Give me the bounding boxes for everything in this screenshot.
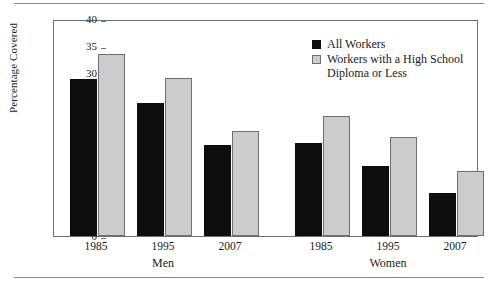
y-axis-title: Percentage Covered xyxy=(7,0,19,143)
bar-hs-or-less xyxy=(165,78,192,236)
bar-all-workers xyxy=(362,166,389,236)
x-tick-label: 2007 xyxy=(425,240,485,252)
chart-legend: All Workers Workers with a High School D… xyxy=(312,37,497,81)
bar-hs-or-less xyxy=(98,54,125,236)
legend-label-all-workers: All Workers xyxy=(327,37,385,51)
x-tick-label: 1995 xyxy=(358,240,418,252)
legend-label-hs-or-less: Workers with a High School Diploma or Le… xyxy=(327,52,463,80)
x-tick-label: 1985 xyxy=(291,240,351,252)
bar-all-workers xyxy=(137,103,164,236)
x-tick-label: 1985 xyxy=(66,240,126,252)
figure-container: Percentage Covered 0510152025303540 All … xyxy=(0,0,497,286)
legend-swatch-hs-or-less xyxy=(312,55,321,64)
plot-area: 0510152025303540 All Workers Workers wit… xyxy=(53,20,478,237)
legend-swatch-all-workers xyxy=(312,40,321,49)
bar-hs-or-less xyxy=(232,131,259,236)
bar-all-workers xyxy=(429,193,456,236)
x-tick-label: 1995 xyxy=(133,240,193,252)
figure-bottom-rule xyxy=(14,277,484,278)
legend-item-all-workers: All Workers xyxy=(312,37,497,51)
legend-item-hs-or-less: Workers with a High School Diploma or Le… xyxy=(312,52,497,80)
figure-top-rule xyxy=(14,3,484,4)
x-group-label-women: Women xyxy=(333,256,443,271)
bar-hs-or-less xyxy=(457,171,484,236)
x-tick-label: 2007 xyxy=(200,240,260,252)
bar-hs-or-less xyxy=(323,116,350,236)
bar-all-workers xyxy=(70,79,97,236)
bar-all-workers xyxy=(295,143,322,236)
bar-all-workers xyxy=(204,145,231,236)
bar-hs-or-less xyxy=(390,137,417,236)
y-tick-mark xyxy=(101,238,106,239)
x-group-label-men: Men xyxy=(108,256,218,271)
